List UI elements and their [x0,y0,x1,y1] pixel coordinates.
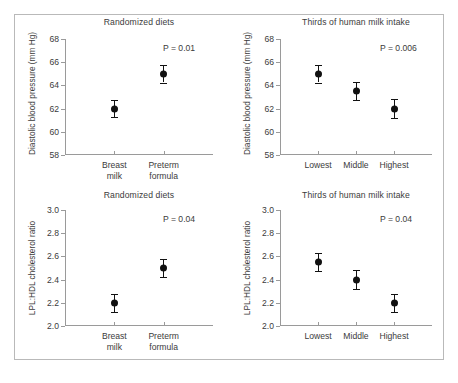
y-axis-tick-label: 3.0 [47,205,59,215]
y-axis-tick-label: 2.0 [47,321,59,331]
panel-title: Thirds of human milk intake [280,190,432,200]
y-axis-tick-label: 68 [49,34,59,44]
x-axis-tick-label-line: Lowest [304,160,331,171]
panel-diastolic-thirds: Thirds of human milk intakeP = 0.006Dias… [230,17,445,190]
data-point [356,39,357,155]
data-point [114,210,115,326]
data-point-marker [111,299,118,306]
x-axis-tick-label-line: formula [148,171,179,182]
y-axis-tick [61,132,65,133]
data-point-marker [353,276,360,283]
y-axis-tick [61,85,65,86]
x-axis-tick-label-line: Middle [343,160,368,171]
x-axis-line [65,325,213,326]
panel-title: Randomized diets [65,17,213,27]
x-axis-tick-label-line: formula [148,342,179,353]
y-axis-tick [61,109,65,110]
y-axis-tick [276,256,280,257]
error-bar-cap-upper [111,100,118,101]
x-axis-tick-label: Lowest [304,160,331,171]
y-axis-tick-label: 66 [49,57,59,67]
error-bar-cap-lower [391,118,398,119]
y-axis-tick [61,326,65,327]
x-axis-tick-label-line: Breast [102,160,127,171]
error-bar-cap-upper [353,82,360,83]
x-axis-tick-label: Pretermformula [148,331,179,352]
data-point [394,210,395,326]
y-axis-label: LPL:HDL cholesterol ratio [242,210,252,326]
y-axis-tick-label: 2.0 [262,321,274,331]
error-bar-cap-upper [353,270,360,271]
data-point [394,39,395,155]
data-point [163,210,164,326]
data-point-marker [391,299,398,306]
y-axis-tick-label: 2.2 [47,298,59,308]
y-axis-tick-label: 2.8 [47,228,59,238]
y-axis-tick [61,62,65,63]
error-bar-cap-lower [111,312,118,313]
x-axis-tick-label: Lowest [304,331,331,342]
x-axis-tick-label: Pretermformula [148,160,179,181]
data-point-marker [315,259,322,266]
data-point [356,210,357,326]
y-axis-tick [276,233,280,234]
error-bar-cap-upper [315,65,322,66]
data-point [114,39,115,155]
panel-title: Randomized diets [65,190,213,200]
y-axis-tick-label: 2.4 [47,275,59,285]
error-bar-cap-lower [353,289,360,290]
y-axis-tick-label: 66 [264,57,274,67]
x-axis-tick-label-line: Highest [379,160,408,171]
plot-area: 586062646668BreastmilkPretermformula [65,39,213,155]
figure-frame: Randomized dietsP = 0.01Diastolic blood … [14,14,444,360]
x-axis-tick-label: Breastmilk [102,331,127,352]
data-point [318,210,319,326]
error-bar-cap-lower [160,277,167,278]
y-axis-tick-label: 2.6 [47,251,59,261]
y-axis-tick-label: 62 [49,104,59,114]
plot-area: 2.02.22.42.62.83.0LowestMiddleHighest [280,210,432,326]
error-bar-cap-lower [353,100,360,101]
plot-area: 586062646668LowestMiddleHighest [280,39,432,155]
x-axis-tick-label-line: Middle [343,331,368,342]
y-axis-tick-label: 2.8 [262,228,274,238]
y-axis-tick [61,210,65,211]
x-axis-tick-label-line: Breast [102,331,127,342]
y-axis-tick [276,210,280,211]
y-axis-tick [61,155,65,156]
y-axis-tick [276,62,280,63]
y-axis-tick [276,303,280,304]
y-axis-tick [276,155,280,156]
x-axis-tick-label: Middle [343,160,368,171]
y-axis-tick-label: 3.0 [262,205,274,215]
x-axis-tick-label-line: Preterm [148,331,179,342]
y-axis-line [280,210,281,326]
error-bar-cap-lower [111,117,118,118]
y-axis-tick [276,326,280,327]
data-point [318,39,319,155]
y-axis-tick [61,233,65,234]
y-axis-tick [61,39,65,40]
y-axis-tick [276,280,280,281]
x-axis-tick-label-line: milk [102,171,127,182]
y-axis-line [65,210,66,326]
plot-area: 2.02.22.42.62.83.0BreastmilkPretermformu… [65,210,213,326]
error-bar-cap-upper [391,294,398,295]
y-axis-tick-label: 2.4 [262,275,274,285]
x-axis-tick-label-line: milk [102,342,127,353]
data-point-marker [391,105,398,112]
y-axis-label: Diastolic blood pressure (mm Hg) [242,39,252,155]
error-bar-cap-upper [160,65,167,66]
x-axis-tick-label-line: Preterm [148,160,179,171]
x-axis-tick-label-line: Highest [379,331,408,342]
error-bar-cap-upper [315,253,322,254]
y-axis-tick-label: 2.6 [262,251,274,261]
y-axis-tick [276,85,280,86]
x-axis-tick-label: Middle [343,331,368,342]
data-point-marker [353,88,360,95]
y-axis-tick [61,256,65,257]
error-bar-cap-lower [315,83,322,84]
y-axis-tick-label: 62 [264,104,274,114]
panel-diastolic-randomized: Randomized dietsP = 0.01Diastolic blood … [15,17,230,190]
y-axis-tick [276,39,280,40]
